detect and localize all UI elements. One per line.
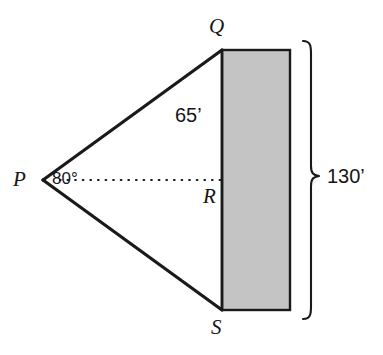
geometry-figure: Q P R S 80° 65’ 130’ bbox=[0, 0, 383, 355]
measure-label-65-feet: 65’ bbox=[175, 105, 202, 125]
vertex-label-q: Q bbox=[209, 16, 224, 37]
vertex-label-s: S bbox=[211, 317, 222, 338]
angle-label-80-degrees: 80° bbox=[52, 170, 78, 187]
vertex-label-p: P bbox=[13, 169, 26, 190]
segment-ps bbox=[43, 180, 222, 310]
dimension-brace bbox=[303, 41, 319, 319]
shaded-rectangle bbox=[222, 50, 290, 310]
measure-label-130-feet: 130’ bbox=[327, 166, 365, 186]
vertex-label-r: R bbox=[203, 186, 216, 207]
